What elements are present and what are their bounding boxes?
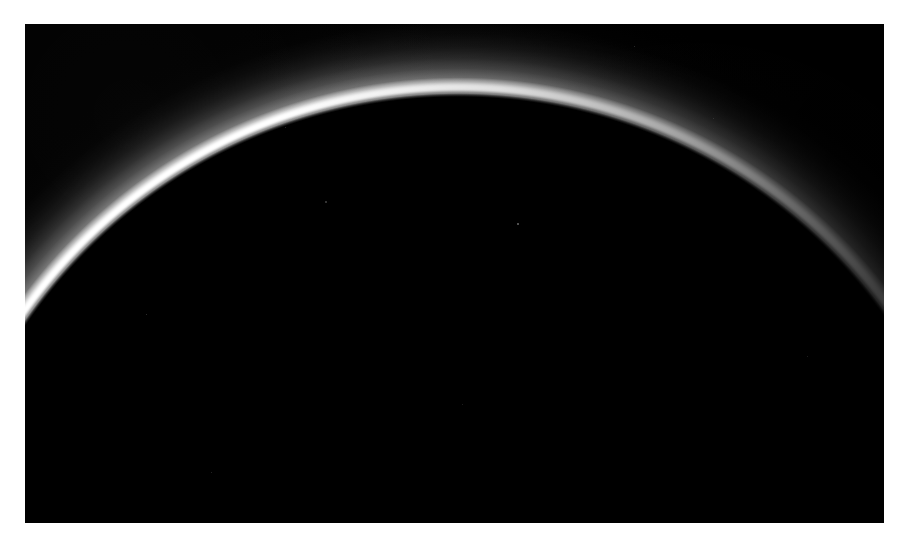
star-speck [713,118,714,119]
detached-haze-band-layer [25,24,884,523]
star-speck [146,314,147,315]
vignette-overlay [25,24,884,523]
illumination-gradient [25,24,884,523]
star-speck [285,127,286,128]
photo-image [25,24,884,523]
atmospheric-haze-layer [25,24,884,523]
star-speck [211,472,212,473]
planet-night-side-disc [25,24,884,523]
star-speck [517,223,519,225]
star-speck [462,404,463,405]
bright-limb-rim [25,24,884,523]
star-speck [807,356,808,357]
page-root [0,0,906,550]
star-speck [325,201,327,203]
star-speck [634,46,635,47]
image-grain-overlay [25,24,884,523]
